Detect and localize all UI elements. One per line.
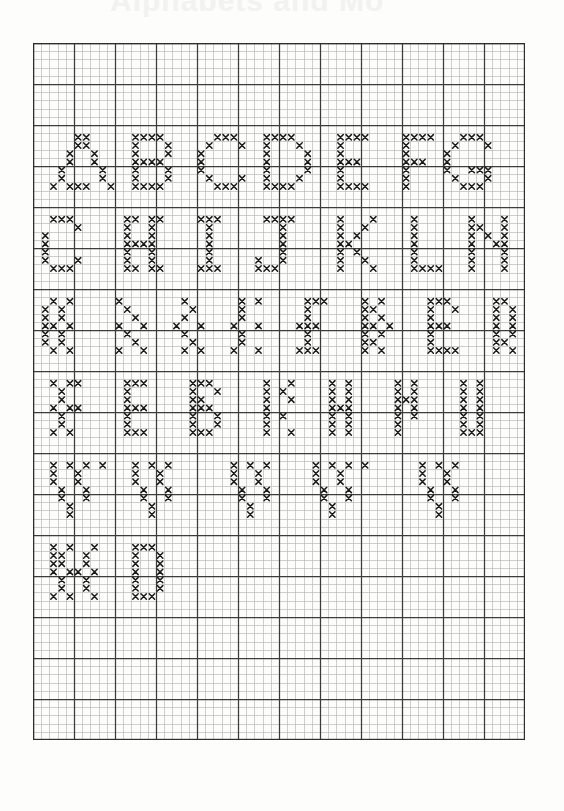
pattern-grid-canvas <box>33 43 525 740</box>
page-root: Alphabets and Mo <box>0 0 564 811</box>
faded-header-text: Alphabets and Mo <box>110 0 530 18</box>
cross-stitch-chart <box>33 43 525 745</box>
